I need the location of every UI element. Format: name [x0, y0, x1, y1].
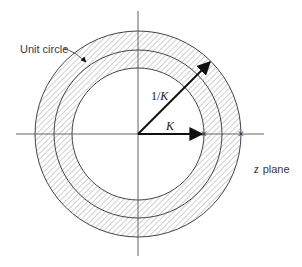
label-K: K	[165, 119, 175, 133]
pole-marker-inner: ×	[201, 127, 208, 141]
unit-circle-label: Unit circle	[20, 43, 68, 55]
label-1-over-K: 1/K	[151, 89, 169, 103]
z-plane-label: zplane	[253, 162, 290, 176]
pole-marker-outer: ×	[238, 127, 245, 141]
z-plane-diagram: × × Unit circle 1/K K zplane	[0, 0, 302, 267]
